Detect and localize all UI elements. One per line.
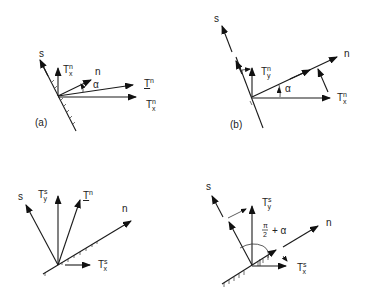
n-label: n: [344, 48, 350, 59]
s-label: s: [214, 13, 219, 24]
svg-text:π: π: [263, 222, 268, 229]
panel-a: s Tnx n α Tn Tnx (a): [35, 48, 156, 131]
tsy-label: Tsy: [38, 188, 48, 203]
tsx-label: Tsx: [98, 258, 108, 272]
tnx-vertical-label: Tnx: [63, 63, 73, 77]
surface-line: [222, 250, 276, 284]
surface-line: [236, 57, 263, 128]
tnx-horizontal-label: Tnx: [146, 98, 156, 112]
s-arrow: [212, 196, 223, 217]
tn-arrow: [58, 200, 80, 265]
tsx-label: Tsx: [297, 261, 307, 275]
panel-c: s Tsy Tn n Tsx: [18, 188, 131, 276]
tny-label: Tny: [261, 65, 271, 80]
rotation-arrow: [242, 69, 250, 74]
perpendicular-arrow: [318, 69, 328, 92]
n-mid-arrowhead: [290, 70, 310, 79]
s-long-arrow: [229, 222, 252, 265]
s-arrow: [222, 26, 232, 52]
panel-d: s Tsy n π 2 + α Tsx: [206, 181, 332, 287]
surface-hatching: [51, 80, 75, 125]
tnx-label: Tnx: [337, 91, 347, 105]
surface-hatching: [224, 256, 268, 287]
s-label: s: [206, 181, 211, 192]
panel-b: s Tny n α Tnx (b): [214, 13, 350, 130]
angle-arc-arrow: [283, 256, 287, 261]
alpha-arc: [81, 84, 83, 92]
alpha-label: α: [285, 83, 291, 94]
n-label: n: [95, 66, 101, 77]
svg-text:2: 2: [263, 231, 267, 238]
tsy-label: Tsy: [262, 196, 272, 211]
s-label: s: [39, 48, 44, 59]
panel-label-b: (b): [230, 119, 242, 130]
tn-label: Tn: [144, 77, 154, 89]
n-label: n: [326, 217, 332, 228]
n-arrow: [283, 226, 318, 247]
surface-hatch: [250, 101, 252, 105]
panel-label-a: (a): [35, 117, 47, 128]
s-short-arrow: [236, 61, 242, 74]
pi-half-plus-alpha-label: π 2 + α: [262, 222, 287, 238]
svg-text:+ α: + α: [272, 225, 287, 236]
surface-line: [43, 221, 131, 274]
s-arrow: [26, 205, 58, 265]
rotation-arrow: [228, 209, 246, 218]
tn-label: Tn: [83, 189, 93, 201]
n-label: n: [122, 203, 128, 214]
stress-vector-diagram: s Tnx n α Tn Tnx (a) s Tny n α Tnx (b): [0, 0, 379, 298]
s-arrow: [40, 60, 48, 76]
s-label: s: [18, 191, 23, 202]
alpha-label: α: [93, 79, 99, 90]
